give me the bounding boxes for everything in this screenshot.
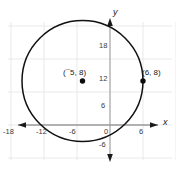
coordinate-plane-svg xyxy=(0,0,176,169)
x-axis-label: x xyxy=(163,118,168,127)
y-tick-label-neg6: -6 xyxy=(99,141,106,149)
grid-lines xyxy=(8,22,176,160)
center-point-marker xyxy=(80,78,85,83)
y-tick-label-6: 6 xyxy=(101,102,105,110)
y-tick-label-12: 12 xyxy=(99,75,107,83)
y-tick-label-18: 18 xyxy=(99,42,107,50)
x-tick-label-6: 6 xyxy=(139,128,143,136)
center-point-label: (¯5, 8) xyxy=(63,69,86,77)
y-axis-label: y xyxy=(113,8,118,17)
x-tick-label-zero: 0 xyxy=(104,128,108,136)
y-axis xyxy=(107,18,113,162)
x-tick-label-neg18: -18 xyxy=(3,128,14,136)
x-tick-label-neg6: -6 xyxy=(69,128,76,136)
circle-point-marker xyxy=(140,78,145,83)
graph-canvas: -18 -12 -6 0 6 18 12 6 -6 y x (¯5, 8) (6… xyxy=(0,0,176,169)
x-tick-label-neg12: -12 xyxy=(36,128,47,136)
circle-point-label: (6, 8) xyxy=(142,69,161,77)
